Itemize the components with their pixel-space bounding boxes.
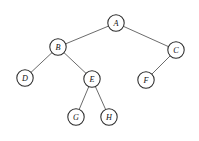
tree-edge-e-g [79, 87, 89, 110]
tree-edge-c-f [152, 56, 170, 74]
tree-edge-layer [31, 26, 170, 109]
binary-tree-figure: ABCDEFGH [0, 0, 199, 141]
tree-node-g[interactable]: G [68, 109, 84, 125]
tree-edge-b-e [64, 53, 86, 74]
tree-node-a[interactable]: A [108, 15, 124, 31]
tree-diagram-canvas: ABCDEFGH [0, 0, 199, 141]
node-label-e: E [88, 75, 94, 84]
tree-node-h[interactable]: H [101, 109, 117, 125]
tree-edge-a-b [66, 26, 109, 44]
tree-node-layer: ABCDEFGH [17, 15, 184, 125]
node-label-g: G [73, 113, 79, 122]
node-label-c: C [173, 46, 179, 55]
node-label-f: F [142, 76, 149, 85]
node-label-h: H [105, 113, 113, 122]
node-label-a: A [112, 19, 119, 28]
tree-edge-b-d [31, 53, 52, 73]
node-label-b: B [55, 43, 60, 52]
tree-node-b[interactable]: B [50, 39, 66, 55]
tree-node-c[interactable]: C [168, 42, 184, 58]
tree-node-f[interactable]: F [138, 72, 154, 88]
node-label-d: D [21, 74, 28, 83]
tree-node-d[interactable]: D [17, 70, 33, 86]
tree-edge-a-c [123, 26, 168, 46]
tree-node-e[interactable]: E [84, 71, 100, 87]
tree-edge-e-h [95, 86, 105, 109]
